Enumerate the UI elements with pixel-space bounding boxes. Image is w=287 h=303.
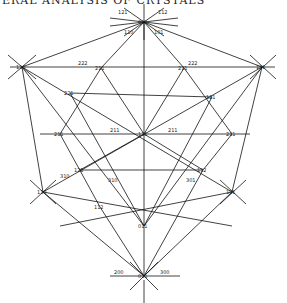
svg-text:200: 200 xyxy=(114,269,124,275)
svg-text:011: 011 xyxy=(138,223,148,229)
svg-text:112: 112 xyxy=(94,204,104,210)
svg-text:211: 211 xyxy=(54,131,64,137)
svg-text:011: 011 xyxy=(138,19,148,25)
svg-text:110: 110 xyxy=(124,29,134,35)
svg-text:211: 211 xyxy=(226,131,236,137)
svg-text:211: 211 xyxy=(178,65,188,71)
svg-text:211: 211 xyxy=(110,127,120,133)
svg-text:300: 300 xyxy=(160,269,170,275)
node-labels: 011 110 211 211 101 221 121 211 111 211 … xyxy=(16,9,266,279)
svg-text:222: 222 xyxy=(78,60,88,66)
frame-lines xyxy=(10,22,275,276)
svg-text:110: 110 xyxy=(37,189,47,195)
svg-text:101: 101 xyxy=(154,29,164,35)
svg-text:310: 310 xyxy=(108,177,118,183)
svg-text:101: 101 xyxy=(226,189,236,195)
svg-text:211: 211 xyxy=(168,127,178,133)
svg-text:211: 211 xyxy=(95,65,105,71)
svg-text:011: 011 xyxy=(138,273,148,279)
svg-text:222: 222 xyxy=(188,60,198,66)
node-bursts xyxy=(8,4,276,303)
svg-text:112: 112 xyxy=(197,167,207,173)
svg-text:112: 112 xyxy=(158,9,168,15)
svg-text:101: 101 xyxy=(256,64,266,70)
svg-text:111: 111 xyxy=(138,131,148,137)
svg-text:310: 310 xyxy=(60,173,70,179)
stereographic-diagram: 011 110 211 211 101 221 121 211 111 211 … xyxy=(0,0,287,303)
svg-text:301: 301 xyxy=(186,177,196,183)
svg-text:121: 121 xyxy=(118,9,128,15)
svg-text:110: 110 xyxy=(16,64,26,70)
svg-text:221: 221 xyxy=(64,90,74,96)
svg-text:121: 121 xyxy=(74,167,84,173)
svg-text:121: 121 xyxy=(206,94,216,100)
